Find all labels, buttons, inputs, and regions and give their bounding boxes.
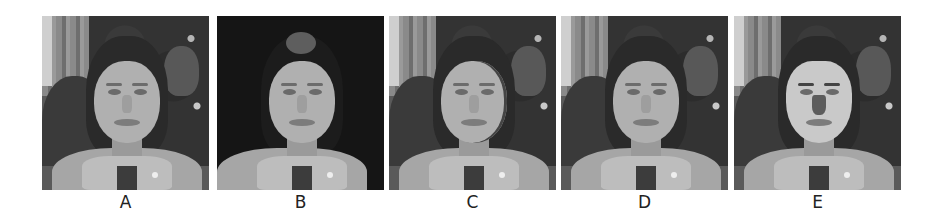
ring bbox=[499, 172, 505, 178]
subject-face bbox=[269, 61, 335, 143]
panel-d-image bbox=[561, 16, 728, 190]
nose bbox=[469, 95, 479, 113]
mouth bbox=[114, 119, 140, 126]
brow bbox=[453, 83, 469, 86]
ring bbox=[671, 172, 677, 178]
brow bbox=[798, 83, 814, 86]
eye bbox=[108, 89, 121, 95]
panel-label: E bbox=[734, 192, 901, 212]
held-object bbox=[292, 166, 312, 190]
held-object bbox=[117, 166, 137, 190]
panel-e-image bbox=[734, 16, 901, 190]
mouth bbox=[806, 119, 832, 126]
eye bbox=[800, 89, 813, 95]
curtain-edge bbox=[389, 16, 399, 86]
photo-scene bbox=[734, 16, 901, 190]
panel-c-image bbox=[389, 16, 556, 190]
eye bbox=[826, 89, 839, 95]
background-person bbox=[683, 46, 718, 96]
eye bbox=[283, 89, 296, 95]
eye bbox=[309, 89, 322, 95]
brow bbox=[281, 83, 297, 86]
nose bbox=[122, 95, 132, 113]
panel-label: C bbox=[389, 192, 556, 212]
background-person bbox=[856, 46, 891, 96]
subject-face bbox=[441, 61, 507, 143]
photo-scene bbox=[561, 16, 728, 190]
curtain-edge bbox=[734, 16, 744, 86]
eye bbox=[653, 89, 666, 95]
eye bbox=[134, 89, 147, 95]
photo-scene bbox=[42, 16, 209, 190]
subject-face bbox=[786, 61, 852, 143]
background-person bbox=[511, 46, 546, 96]
brow bbox=[479, 83, 495, 86]
brow bbox=[824, 83, 840, 86]
panel-b-image bbox=[217, 16, 384, 190]
eye bbox=[481, 89, 494, 95]
eye bbox=[627, 89, 640, 95]
held-object bbox=[636, 166, 656, 190]
photo-scene bbox=[217, 16, 384, 190]
curtain-edge bbox=[42, 16, 52, 86]
mouth bbox=[633, 119, 659, 126]
brow bbox=[651, 83, 667, 86]
held-object bbox=[464, 166, 484, 190]
mouth bbox=[461, 119, 487, 126]
brow bbox=[625, 83, 641, 86]
nose bbox=[641, 95, 651, 113]
photo-scene bbox=[389, 16, 556, 190]
held-object bbox=[809, 166, 829, 190]
panel-label: D bbox=[561, 192, 728, 212]
subject-face bbox=[613, 61, 679, 143]
curtain-edge bbox=[561, 16, 571, 86]
nose bbox=[297, 95, 307, 113]
brow bbox=[132, 83, 148, 86]
ring bbox=[327, 172, 333, 178]
subject-face bbox=[94, 61, 160, 143]
ring bbox=[152, 172, 158, 178]
brow bbox=[307, 83, 323, 86]
nose bbox=[812, 95, 826, 115]
brow bbox=[106, 83, 122, 86]
ring bbox=[844, 172, 850, 178]
background-person bbox=[164, 46, 199, 96]
mouth bbox=[289, 119, 315, 126]
eye bbox=[455, 89, 468, 95]
panel-label: A bbox=[42, 192, 209, 212]
panel-label: B bbox=[217, 192, 384, 212]
panel-a-image bbox=[42, 16, 209, 190]
